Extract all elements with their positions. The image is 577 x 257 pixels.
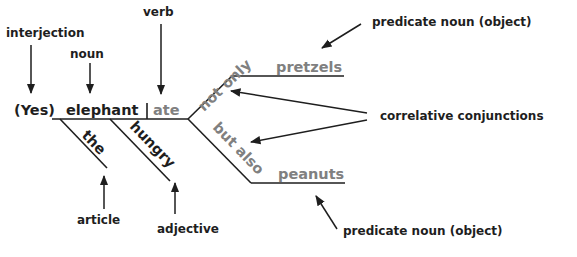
label-predicate-noun-top: predicate noun (object) — [372, 15, 532, 29]
word-verb: ate — [153, 102, 180, 118]
label-verb: verb — [143, 5, 174, 19]
word-interjection: (Yes) — [14, 102, 55, 118]
label-correlative: correlative conjunctions — [380, 109, 544, 123]
word-object-first: pretzels — [276, 59, 342, 75]
arrow-correlative-second-icon — [251, 120, 367, 142]
arrow-predicate-bottom-icon — [316, 196, 337, 229]
label-adjective: adjective — [157, 222, 219, 236]
word-conj-first: not only — [195, 56, 255, 114]
label-article: article — [77, 213, 120, 227]
word-article: the — [79, 127, 109, 158]
word-conj-second: but also — [210, 119, 267, 178]
sentence-diagram: (Yes) elephant ate the hungry not only b… — [0, 0, 577, 257]
label-noun: noun — [70, 47, 104, 61]
label-predicate-noun-bottom: predicate noun (object) — [343, 224, 503, 238]
label-interjection: interjection — [6, 26, 84, 40]
word-subject: elephant — [66, 102, 138, 118]
arrow-predicate-top-icon — [322, 24, 361, 48]
arrow-correlative-first-icon — [231, 91, 367, 113]
word-object-second: peanuts — [278, 166, 344, 182]
